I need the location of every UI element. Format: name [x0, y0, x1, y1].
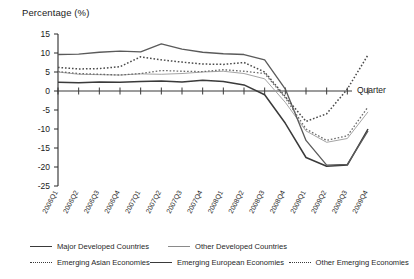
svg-text:2008Q3: 2008Q3	[248, 189, 267, 215]
svg-text:2008Q4: 2008Q4	[268, 189, 287, 215]
legend-swatch-dotted-icon	[30, 262, 52, 263]
y-axis-title: Percentage (%)	[22, 7, 89, 18]
svg-text:2009Q2: 2009Q2	[310, 189, 329, 215]
legend-label: Emerging European Economies	[177, 258, 284, 267]
svg-text:10: 10	[41, 48, 51, 58]
svg-text:2007Q4: 2007Q4	[186, 189, 205, 215]
svg-text:2009Q1: 2009Q1	[289, 189, 308, 215]
legend-item-other-developed-countries: Other Developed Countries	[168, 242, 328, 251]
svg-text:2007Q3: 2007Q3	[165, 189, 184, 215]
x-axis-ticks: 2006Q12006Q22006Q32006Q42007Q12007Q22007…	[41, 88, 370, 215]
legend-swatch-solid-icon	[30, 246, 52, 247]
svg-text:2009Q3: 2009Q3	[330, 189, 349, 215]
legend-swatch-solid-icon	[150, 262, 172, 263]
svg-text:2008Q2: 2008Q2	[227, 189, 246, 215]
legend-item-emerging-asian-economies: Emerging Asian Economies	[30, 258, 150, 267]
svg-text:2007Q1: 2007Q1	[124, 189, 143, 215]
svg-text:2006Q3: 2006Q3	[82, 189, 101, 215]
legend-item-other-emerging-economies: Other Emerging Economies	[289, 258, 410, 267]
legend-swatch-thin-icon	[168, 246, 190, 247]
svg-text:5: 5	[45, 67, 50, 77]
series-line	[58, 80, 368, 166]
svg-text:2006Q2: 2006Q2	[62, 189, 81, 215]
legend-item-major-developed-countries: Major Developed Countries	[30, 242, 168, 251]
legend-row-2: Emerging Asian Economies Emerging Europe…	[30, 254, 410, 270]
x-axis-title: Quarter	[357, 85, 386, 95]
legend-label: Other Developed Countries	[195, 242, 287, 251]
legend-label: Major Developed Countries	[57, 242, 149, 251]
svg-text:-10: -10	[38, 124, 51, 134]
legend-item-emerging-european-economies: Emerging European Economies	[150, 258, 289, 267]
svg-text:15: 15	[41, 29, 51, 39]
series-line	[58, 44, 368, 165]
series-line	[58, 55, 368, 122]
legend-label: Other Emerging Economies	[316, 258, 409, 267]
svg-text:-5: -5	[42, 105, 50, 115]
y-axis-ticks: 151050-5-10-15-20-25	[38, 29, 58, 191]
svg-text:2007Q2: 2007Q2	[144, 189, 163, 215]
legend-swatch-dotted-icon	[289, 262, 311, 263]
svg-text:0: 0	[45, 86, 50, 96]
line-chart-plot: 151050-5-10-15-20-25 2006Q12006Q22006Q32…	[0, 0, 414, 235]
svg-text:-20: -20	[38, 162, 51, 172]
svg-text:2006Q4: 2006Q4	[103, 189, 122, 215]
series-lines	[58, 44, 368, 166]
svg-text:-25: -25	[38, 181, 51, 191]
legend-row-1: Major Developed Countries Other Develope…	[30, 238, 410, 254]
svg-text:2009Q4: 2009Q4	[351, 189, 370, 215]
svg-text:-15: -15	[38, 143, 51, 153]
chart-figure: Percentage (%) Quarter 151050-5-10-15-20…	[0, 0, 414, 279]
chart-legend: Major Developed Countries Other Develope…	[30, 238, 410, 270]
svg-text:2006Q1: 2006Q1	[41, 189, 60, 215]
legend-label: Emerging Asian Economies	[57, 258, 150, 267]
svg-text:2008Q1: 2008Q1	[206, 189, 225, 215]
